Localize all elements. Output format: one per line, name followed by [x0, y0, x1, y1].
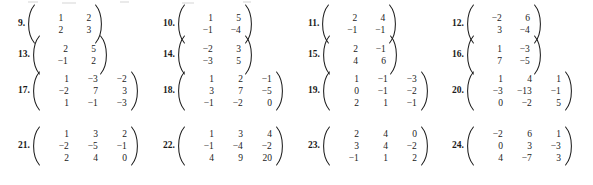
matrix-row: 0−25	[476, 97, 563, 109]
left-parenthesis-icon	[323, 71, 330, 111]
matrix-cell: −1	[187, 140, 216, 152]
matrix-row: 1−1−3	[42, 97, 129, 109]
matrix-row: 4920	[187, 152, 274, 164]
matrix-body: 1−1−30−1−221−1	[330, 71, 421, 111]
matrix-cell: 3	[216, 128, 245, 140]
right-parenthesis-icon	[390, 35, 397, 75]
matrix-cell: −2	[42, 140, 71, 152]
matrix-cell: 2	[100, 128, 129, 140]
matrix-cell: 1	[476, 73, 505, 85]
matrix-cell: 2	[42, 152, 71, 164]
matrix-row: −23	[187, 43, 243, 55]
matrix-body: −26103−34−73	[474, 126, 565, 166]
matrix: 134−1−4−24920	[178, 126, 283, 166]
matrix-cell: 2	[65, 12, 93, 24]
matrix-cell: 1	[42, 128, 71, 140]
matrix-cell: −2	[476, 128, 505, 140]
matrix-row: −112	[332, 152, 419, 164]
matrix-cell: 7	[476, 55, 504, 67]
matrix-cell: −1	[332, 152, 361, 164]
exercise-number: 19.	[308, 86, 320, 96]
matrix-cell: −3	[100, 97, 129, 109]
matrix-cell: −1	[390, 97, 419, 109]
matrix-cell: 2	[331, 12, 359, 24]
matrix-body: 24034−2−112	[330, 126, 421, 166]
matrix-row: 240	[332, 128, 419, 140]
matrix-cell: 3	[332, 140, 361, 152]
matrix-row: 0−1−2	[332, 85, 419, 97]
matrix-row: 12	[37, 12, 93, 24]
matrix-cell: 0	[476, 140, 505, 152]
matrix-cell: −2	[245, 140, 274, 152]
matrix-body: −23−35	[185, 35, 245, 75]
matrix-cell: 7	[71, 85, 100, 97]
matrix: 1−3−2−2731−1−3	[33, 71, 138, 111]
left-parenthesis-icon	[178, 71, 185, 111]
matrix-body: 132−2−5−1240	[40, 126, 131, 166]
matrix-cell: 3	[100, 85, 129, 97]
matrix-cell: −3	[534, 140, 563, 152]
matrix-cell: 2	[42, 43, 70, 55]
matrix-cell: 5	[534, 97, 563, 109]
exercise-number: 20.	[452, 86, 464, 96]
matrix-row: 1−1−3	[332, 73, 419, 85]
matrix-cell: −1	[361, 73, 390, 85]
matrix-body: 12−137−5−1−20	[185, 71, 276, 111]
exercise-item: 21.132−2−5−1240	[18, 126, 138, 166]
matrix-body: 1−3−2−2731−1−3	[40, 71, 131, 111]
matrix-row: 132	[42, 128, 129, 140]
matrix: 25−12	[33, 35, 107, 75]
matrix-cell: −3	[71, 73, 100, 85]
matrix-row: 12−1	[187, 73, 274, 85]
right-parenthesis-icon	[421, 126, 428, 166]
matrix-cell: −2	[216, 97, 245, 109]
right-parenthesis-icon	[131, 126, 138, 166]
exercise-number: 11.	[308, 19, 319, 29]
matrix-cell: 20	[245, 152, 274, 164]
matrix-cell: 1	[332, 73, 361, 85]
matrix-cell: 0	[245, 97, 274, 109]
matrix-row: 03−3	[476, 140, 563, 152]
matrix-row: −3−13−1	[476, 85, 563, 97]
exercise-item: 19.1−1−30−1−221−1	[308, 71, 428, 111]
matrix-cell: 4	[476, 152, 505, 164]
exercise-number: 10.	[163, 19, 175, 29]
matrix-row: 4−73	[476, 152, 563, 164]
right-parenthesis-icon	[565, 126, 572, 166]
matrix-cell: 5	[215, 55, 243, 67]
matrix-body: 1−37−5	[474, 35, 534, 75]
matrix: 12−137−5−1−20	[178, 71, 283, 111]
matrix-row: −2−5−1	[42, 140, 129, 152]
exercise-grid: 9.122310.15−1−411.24−1−112.−263−413.25−1…	[0, 0, 593, 185]
exercise-item: 24.−26103−34−73	[452, 126, 572, 166]
right-parenthesis-icon	[131, 71, 138, 111]
matrix-row: 21−1	[332, 97, 419, 109]
matrix-cell: 4	[361, 128, 390, 140]
left-parenthesis-icon	[33, 126, 40, 166]
matrix-cell: 4	[361, 140, 390, 152]
left-parenthesis-icon	[467, 126, 474, 166]
matrix-row: 25	[42, 43, 98, 55]
matrix: 1−1−30−1−221−1	[323, 71, 428, 111]
matrix-cell: 1	[534, 73, 563, 85]
matrix-cell: 1	[42, 97, 71, 109]
matrix-cell: 4	[187, 152, 216, 164]
matrix-cell: −2	[390, 140, 419, 152]
matrix-cell: 6	[505, 128, 534, 140]
exercise-number: 17.	[18, 86, 30, 96]
matrix-cell: 2	[332, 128, 361, 140]
matrix-cell: 1	[42, 73, 71, 85]
matrix-cell: 0	[390, 128, 419, 140]
matrix-row: −1−20	[187, 97, 274, 109]
matrix-cell: −1	[100, 140, 129, 152]
left-parenthesis-icon	[467, 35, 474, 75]
matrix-cell: 3	[71, 128, 100, 140]
matrix-cell: −5	[71, 140, 100, 152]
matrix-row: 37−5	[187, 85, 274, 97]
matrix-cell: 3	[187, 85, 216, 97]
exercise-number: 22.	[163, 141, 175, 151]
matrix-cell: −4	[216, 140, 245, 152]
exercise-number: 9.	[18, 19, 25, 29]
matrix-cell: 3	[215, 43, 243, 55]
matrix-cell: 7	[216, 85, 245, 97]
